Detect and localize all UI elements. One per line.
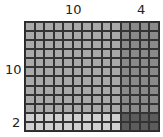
grid-cell [35,76,45,85]
grid-cell [102,104,112,113]
grid-cell [140,86,150,95]
grid-cell [44,86,54,95]
grid-cell [111,86,121,95]
grid-cell [149,22,159,31]
grid-cell [73,49,83,58]
grid-cell [92,95,102,104]
grid-cell [82,95,92,104]
grid-cell [92,58,102,67]
grid-cell [130,76,140,85]
grid-cell [130,95,140,104]
grid-cell [92,31,102,40]
grid-cell [92,76,102,85]
grid-cell [111,76,121,85]
area-model-grid [24,21,160,132]
grid-cell [140,67,150,76]
grid-cell [82,22,92,31]
grid-cell [92,122,102,131]
grid-cell [54,67,64,76]
grid-cell [54,49,64,58]
grid-cell [25,58,35,67]
grid-cell [73,76,83,85]
grid-cell [121,31,131,40]
grid-cell [121,58,131,67]
grid-cell [63,67,73,76]
grid-cell [25,122,35,131]
grid-cell [149,31,159,40]
grid-cell [102,95,112,104]
top-label-4: 4 [137,3,145,16]
grid-cell [54,95,64,104]
grid-cell [102,40,112,49]
grid-cell [111,31,121,40]
grid-cell [63,76,73,85]
grid-cell [102,31,112,40]
grid-cell [44,58,54,67]
grid-cell [149,95,159,104]
grid-cell [149,58,159,67]
grid-cell [149,40,159,49]
grid-cell [73,31,83,40]
grid-cell [35,95,45,104]
grid-cell [54,22,64,31]
grid-cell [102,58,112,67]
grid-cell [92,40,102,49]
grid-cell [63,104,73,113]
grid-cell [82,40,92,49]
grid-cell [73,104,83,113]
grid-cell [63,40,73,49]
grid-cell [121,40,131,49]
grid-cell [111,104,121,113]
grid-cell [102,49,112,58]
grid-cell [82,122,92,131]
grid-cell [35,86,45,95]
grid-cell [35,49,45,58]
grid-cell [140,95,150,104]
grid-cell [44,104,54,113]
grid-cell [35,22,45,31]
grid-cell [63,86,73,95]
grid-cell [82,113,92,122]
grid-cell [63,49,73,58]
grid-cell [149,86,159,95]
grid-cell [140,22,150,31]
grid-cell [44,49,54,58]
grid-cell [73,58,83,67]
grid-cell [111,22,121,31]
grid-cell [35,31,45,40]
grid-cell [63,58,73,67]
grid-cell [92,49,102,58]
grid-cell [63,113,73,122]
grid-cell [92,113,102,122]
grid-cell [82,86,92,95]
grid-cell [82,58,92,67]
grid-cell [121,49,131,58]
grid-cell [63,122,73,131]
grid-cell [54,113,64,122]
grid-cell [82,67,92,76]
top-label-10: 10 [65,3,82,16]
grid-cell [102,67,112,76]
grid-cell [54,86,64,95]
grid-cell [130,40,140,49]
grid-cell [149,76,159,85]
grid-cell [73,122,83,131]
grid-cell [92,86,102,95]
grid-cell [111,58,121,67]
grid-cell [121,67,131,76]
grid-cell [121,95,131,104]
grid-cell [73,67,83,76]
grid-cell [25,67,35,76]
grid-cell [73,40,83,49]
grid-cell [25,40,35,49]
grid-cell [44,31,54,40]
grid-cell [130,122,140,131]
grid-cell [25,31,35,40]
grid-cell [92,67,102,76]
grid-cell [130,49,140,58]
grid-cell [35,122,45,131]
left-label-2: 2 [12,116,20,129]
grid-cell [121,22,131,31]
grid-cell [54,104,64,113]
grid-cell [63,22,73,31]
